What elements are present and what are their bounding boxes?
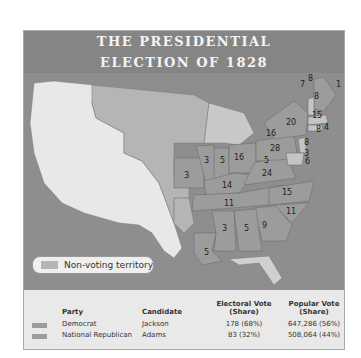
- svg-text:14: 14: [222, 181, 232, 190]
- svg-text:28: 28: [270, 144, 280, 153]
- svg-text:20: 20: [286, 118, 296, 127]
- row-2-electoral: 83 (32%): [204, 331, 284, 339]
- svg-text:15: 15: [312, 111, 322, 120]
- map-title: THE PRESIDENTIAL ELECTION OF 1828: [24, 31, 344, 73]
- svg-text:8: 8: [316, 125, 321, 134]
- svg-text:11: 11: [224, 199, 234, 208]
- svg-text:3: 3: [222, 224, 227, 233]
- non-voting-label: Non-voting territory: [64, 260, 153, 270]
- svg-text:5: 5: [244, 224, 249, 233]
- title-line-1: THE PRESIDENTIAL: [24, 31, 344, 52]
- row-1-electoral: 178 (68%): [204, 320, 284, 328]
- svg-text:16: 16: [266, 129, 276, 138]
- svg-text:7: 7: [300, 80, 305, 89]
- non-voting-legend: Non-voting territory: [32, 256, 154, 274]
- svg-text:15: 15: [282, 188, 292, 197]
- results-table: Party Candidate Electoral Vote (Share) P…: [23, 290, 345, 350]
- svg-text:8: 8: [304, 138, 309, 147]
- header-party: Party: [62, 309, 83, 317]
- florida-territory: [229, 256, 282, 285]
- svg-text:4: 4: [324, 123, 329, 132]
- map-frame: THE PRESIDENTIAL ELECTION OF 1828: [23, 30, 345, 291]
- svg-text:8: 8: [314, 92, 319, 101]
- svg-text:9: 9: [262, 221, 267, 230]
- svg-text:3: 3: [204, 156, 209, 165]
- svg-text:11: 11: [286, 207, 296, 216]
- header-popular: Popular Vote (Share): [274, 301, 354, 316]
- svg-text:8: 8: [308, 74, 313, 83]
- state-md-de: [286, 153, 304, 165]
- row-1-candidate: Jackson: [142, 320, 169, 328]
- national-republican-swatch: [32, 334, 47, 339]
- row-1-party: Democrat: [62, 320, 97, 328]
- row-2-popular: 508,064 (44%): [274, 331, 354, 339]
- row-1-popular: 647,286 (56%): [274, 320, 354, 328]
- svg-text:16: 16: [234, 153, 244, 162]
- svg-text:5: 5: [204, 248, 209, 257]
- svg-text:6: 6: [305, 157, 310, 166]
- michigan-territory: [204, 103, 254, 145]
- svg-text:5: 5: [264, 156, 269, 165]
- svg-text:24: 24: [262, 169, 272, 178]
- non-voting-swatch: [41, 261, 58, 269]
- us-map: 3 3 5 16 14 11 24 5 15 11 9 5 3 5 28 16 …: [24, 73, 344, 290]
- title-line-2: ELECTION OF 1828: [24, 52, 344, 73]
- svg-text:3: 3: [184, 171, 189, 180]
- svg-text:1: 1: [336, 80, 341, 89]
- header-electoral: Electoral Vote (Share): [204, 301, 284, 316]
- democrat-swatch: [32, 323, 47, 328]
- row-2-party: National Republican: [62, 331, 132, 339]
- header-candidate: Candidate: [142, 309, 182, 317]
- svg-text:5: 5: [220, 156, 225, 165]
- row-2-candidate: Adams: [142, 331, 166, 339]
